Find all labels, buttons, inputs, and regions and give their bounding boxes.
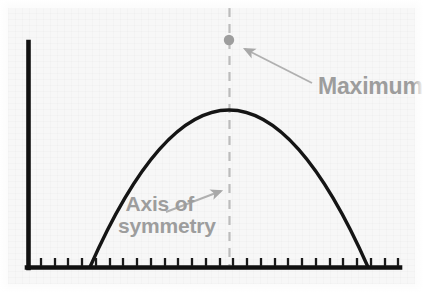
maximum-arrow — [245, 49, 312, 83]
axis-of-symmetry-label-line2: symmetry — [104, 215, 216, 237]
vertex-marker — [224, 35, 234, 45]
maximum-label: Maximum — [318, 74, 423, 99]
axis-of-symmetry-label: Axis of symmetry — [104, 193, 216, 237]
parabola-chart — [0, 0, 423, 292]
axis-of-symmetry-label-line1: Axis of — [126, 192, 195, 215]
parabola-figure: Maximum Axis of symmetry — [0, 0, 423, 292]
